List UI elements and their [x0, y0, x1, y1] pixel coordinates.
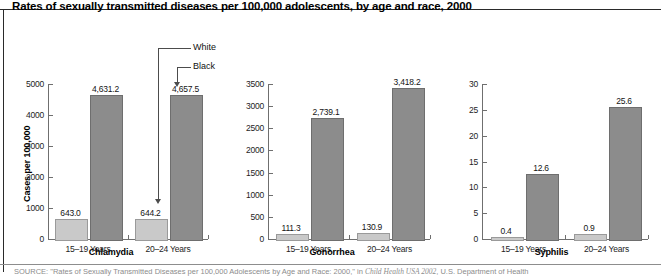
- y-tick-syphilis-5: [483, 110, 487, 111]
- y-tick-label-syphilis-4: 20: [436, 131, 478, 141]
- chart-panel-gonorrhea: 0500100015002000250030003500111.32,739.1…: [222, 66, 442, 266]
- chart-panel-chlamydia: Cases per 100,000 0100020003000400050006…: [0, 66, 222, 266]
- y-tick-label-syphilis-5: 25: [436, 105, 478, 115]
- x-tick-gonorrhea-0: [268, 235, 269, 239]
- y-tick-chlamydia-3: [49, 146, 53, 147]
- y-tick-label-syphilis-2: 10: [436, 182, 478, 192]
- y-tick-label-syphilis-1: 5: [436, 208, 478, 218]
- y-tick-syphilis-4: [483, 136, 487, 137]
- y-tick-gonorrhea-6: [269, 106, 273, 107]
- panel-title-chlamydia: Chlamydia: [0, 247, 222, 257]
- y-tick-gonorrhea-3: [269, 173, 273, 174]
- source-text-part2: , U.S. Department of Health: [436, 267, 528, 276]
- y-tick-syphilis-2: [483, 187, 487, 188]
- callout-leader-white-horizontal: [158, 48, 191, 49]
- x-tick-gonorrhea-2: [430, 235, 431, 239]
- y-tick-syphilis-0: [483, 239, 487, 240]
- bar-gonorrhea-1519-black: [311, 118, 344, 241]
- y-tick-gonorrhea-7: [269, 84, 273, 85]
- y-tick-label-syphilis-6: 30: [436, 79, 478, 89]
- callout-arrow-white: [155, 199, 161, 204]
- bar-syphilis-2024-black: [609, 107, 642, 241]
- bar-value-label: 3,418.2: [380, 77, 435, 87]
- y-tick-chlamydia-4: [49, 115, 53, 116]
- y-tick-label-chlamydia-4: 4000: [2, 110, 44, 120]
- y-tick-chlamydia-0: [49, 239, 53, 240]
- x-tick-chlamydia-2: [208, 235, 209, 239]
- y-tick-gonorrhea-1: [269, 217, 273, 218]
- y-tick-gonorrhea-4: [269, 150, 273, 151]
- y-tick-label-chlamydia-3: 3000: [2, 141, 44, 151]
- panel-title-gonorrhea: Gonorrhea: [222, 247, 442, 257]
- callout-label-white: White: [193, 42, 216, 52]
- source-label: SOURCE:: [14, 267, 48, 276]
- y-tick-syphilis-3: [483, 162, 487, 163]
- y-tick-label-syphilis-3: 15: [436, 157, 478, 167]
- y-tick-label-chlamydia-1: 1000: [2, 203, 44, 213]
- bar-value-label: 4,657.5: [158, 84, 213, 94]
- bar-chlamydia-1519-black: [90, 95, 123, 241]
- y-axis-gonorrhea: [268, 84, 269, 239]
- y-tick-label-gonorrhea-1: 500: [222, 212, 264, 222]
- y-tick-label-gonorrhea-5: 2500: [222, 123, 264, 133]
- y-tick-syphilis-6: [483, 84, 487, 85]
- callout-leader-black-horizontal: [177, 67, 191, 68]
- y-tick-chlamydia-2: [49, 177, 53, 178]
- y-tick-label-chlamydia-2: 2000: [2, 172, 44, 182]
- bar-value-label: 12.6: [514, 163, 569, 173]
- y-axis-label-chlamydia: Cases per 100,000: [22, 126, 32, 202]
- bar-gonorrhea-1519-white: [276, 234, 309, 241]
- bar-gonorrhea-2024-black: [392, 88, 425, 241]
- x-tick-syphilis-0: [482, 235, 483, 239]
- bar-syphilis-1519-white: [491, 237, 524, 241]
- chart-panel-syphilis: 0510152025300.412.615–19 Years0.925.620–…: [442, 66, 661, 266]
- source-text-part1: "Rates of Sexually Transmitted Diseases …: [48, 267, 365, 276]
- callout-label-black: Black: [193, 61, 215, 71]
- panel-title-syphilis: Syphilis: [442, 247, 661, 257]
- y-tick-gonorrhea-0: [269, 239, 273, 240]
- y-tick-label-chlamydia-0: 0: [2, 234, 44, 244]
- y-tick-label-gonorrhea-6: 3000: [222, 101, 264, 111]
- bar-value-label: 25.6: [597, 96, 652, 106]
- figure-container: Rates of sexually transmitted diseases p…: [0, 0, 661, 278]
- y-tick-chlamydia-5: [49, 84, 53, 85]
- source-publication-title: Child Health USA 2002: [365, 267, 436, 276]
- bar-chlamydia-2024-black: [170, 95, 203, 241]
- x-tick-chlamydia-1: [128, 235, 129, 239]
- y-tick-label-gonorrhea-7: 3500: [222, 79, 264, 89]
- x-tick-syphilis-1: [565, 235, 566, 239]
- x-tick-syphilis-2: [648, 235, 649, 239]
- y-tick-label-gonorrhea-2: 1000: [222, 190, 264, 200]
- bar-value-label: 4,631.2: [78, 84, 133, 94]
- callout-arrow-black: [174, 82, 180, 87]
- bar-syphilis-1519-black: [526, 174, 559, 241]
- y-tick-gonorrhea-5: [269, 128, 273, 129]
- callout-leader-white-vertical: [158, 48, 159, 201]
- x-tick-chlamydia-0: [48, 235, 49, 239]
- y-tick-label-gonorrhea-0: 0: [222, 234, 264, 244]
- x-tick-gonorrhea-1: [349, 235, 350, 239]
- bar-chlamydia-1519-white: [55, 219, 88, 241]
- y-tick-gonorrhea-2: [269, 195, 273, 196]
- y-tick-syphilis-1: [483, 213, 487, 214]
- y-tick-label-syphilis-0: 0: [436, 234, 478, 244]
- y-tick-label-gonorrhea-4: 2000: [222, 145, 264, 155]
- bar-chlamydia-2024-white: [135, 219, 168, 241]
- source-note: SOURCE: "Rates of Sexually Transmitted D…: [14, 267, 654, 276]
- bar-value-label: 2,739.1: [299, 107, 354, 117]
- figure-title: Rates of sexually transmitted diseases p…: [12, 0, 652, 12]
- y-tick-label-gonorrhea-3: 1500: [222, 168, 264, 178]
- bar-gonorrhea-2024-white: [357, 233, 390, 241]
- y-tick-label-chlamydia-5: 5000: [2, 79, 44, 89]
- bar-syphilis-2024-white: [574, 234, 607, 241]
